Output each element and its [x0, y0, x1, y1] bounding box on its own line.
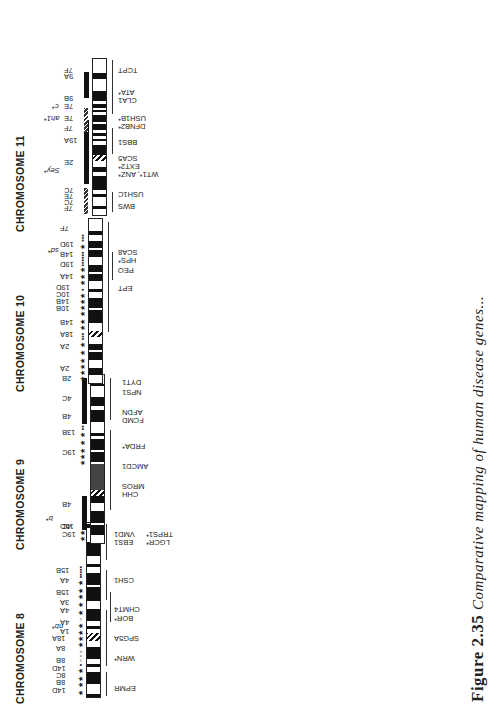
band-label: 4C — [62, 394, 72, 402]
gene-label: EXT2* — [118, 162, 140, 170]
gene-label: BWS — [118, 202, 135, 210]
band-label: 9B — [64, 94, 73, 102]
band-label: 7F — [64, 124, 73, 132]
gene-label: CLA1 — [118, 96, 137, 104]
chromosome-11: CHROMOSOME 11 Sey* ah1* c* 7F 7C 7E 7C 2… — [0, 80, 220, 240]
band-label: 4A — [60, 618, 69, 626]
chromosome-title: CHROMOSOME 10 — [14, 295, 26, 392]
gene-label: FRDA* — [122, 442, 145, 450]
gene-label: EPT — [118, 284, 133, 292]
band-label: 15B — [56, 566, 69, 574]
gene-label: WRN* — [114, 654, 135, 662]
chromosome-9: CHROMOSOME 9 b* 19C 4C 4B 19C 13B 4B 4C … — [0, 400, 220, 560]
band-label: 7E — [64, 102, 73, 110]
chromosome-bar — [92, 58, 107, 216]
gene-range — [110, 430, 111, 510]
gene-label: PEO — [118, 266, 134, 274]
chromosome-bar — [90, 374, 105, 544]
gene-range — [106, 672, 107, 696]
chromosome-8: CHROMOSOME 8 nb* ★ ★★ ★ ▪ ▫ ▫ ▫ ★★★ ★ ▫ … — [0, 560, 220, 710]
figure-page: CHROMOSOME 8 nb* ★ ★★ ★ ▪ ▫ ▫ ▫ ★★★ ★ ▫ … — [0, 0, 490, 710]
allele-label: ah1* — [44, 114, 59, 122]
gene-label: USH1B* — [118, 114, 146, 122]
band-label: 19C — [62, 448, 76, 456]
band-label: 19D — [60, 240, 74, 248]
band-label: 4A — [60, 606, 69, 614]
band-label: 18A — [60, 330, 73, 338]
band-label: 14A — [60, 272, 73, 280]
chromosome-title: CHROMOSOME 8 — [14, 613, 26, 704]
gene-label: AFDN — [122, 408, 142, 416]
allele-label: sd* — [48, 246, 59, 254]
band-label: 4C — [62, 522, 72, 530]
band-label: 2E — [64, 158, 73, 166]
gene-range — [106, 610, 107, 666]
band-label: 19D — [56, 283, 70, 291]
marker-row: ★★★★ ★ ★ ▪▪▪ ★★ ★★★★ ▪ ★★ ★▪▪▪▪▪▪ ★ ▪▪▪ — [80, 234, 85, 382]
band-label: 13B — [62, 428, 75, 436]
gene-label: SCA8 — [118, 248, 138, 256]
allele-label: b* — [46, 514, 53, 522]
band-label: 7C — [64, 186, 74, 194]
figure-caption: Figure 2.35 Comparative mapping of human… — [468, 296, 488, 702]
gene-range — [110, 592, 111, 622]
band-label: 1A — [60, 627, 69, 635]
gene-range — [112, 60, 113, 114]
gene-range — [106, 570, 107, 600]
band-label: 2A — [60, 342, 69, 350]
band-label: 14B — [60, 318, 73, 326]
band-label: 4B — [62, 500, 71, 508]
gene-range — [112, 192, 113, 212]
allele-label: c* — [52, 102, 59, 110]
chromosome-10: CHROMOSOME 10 sd* 2A 2A 18A 14B 10B 14B … — [0, 232, 220, 392]
band-label: 7F — [64, 66, 73, 74]
gene-label: HPS* — [118, 256, 136, 264]
marker-row: ★★ — [80, 530, 85, 542]
band-label: 19C — [62, 530, 76, 538]
marker-row: ★★★ ★ ★ ▪▪ — [80, 425, 85, 466]
gene-label: BOR* — [114, 614, 133, 622]
gene-label: BBS1 — [118, 138, 137, 146]
band-label: 8B — [56, 656, 65, 664]
gene-label: SCA5 — [118, 154, 138, 162]
gene-label: SPG5A — [114, 634, 139, 642]
gene-label: MROS — [122, 482, 145, 490]
conserved-segment — [82, 496, 87, 530]
gene-label: TCPT — [118, 66, 138, 74]
caption-label: Figure 2.35 — [468, 615, 487, 702]
gene-label: EPMR — [114, 684, 136, 692]
chromosome-bar — [88, 218, 103, 384]
band-label: 8A — [56, 644, 65, 652]
gene-label: DFNB2* — [118, 122, 146, 130]
chromosome-title: CHROMOSOME 11 — [14, 135, 26, 232]
gene-range — [112, 252, 113, 280]
gene-label: FCMD — [122, 416, 144, 424]
marker-row: ★ ★★ ★ ▪ ▫ ▫ ▫ ★★★ ★ ▫ ★ ★ ★★ ★ ▪▪▪▪▪ — [78, 566, 83, 696]
band-label: 2A — [60, 364, 69, 372]
band-label: 4B — [62, 412, 71, 420]
allele-label: Sey* — [44, 166, 60, 174]
gene-label: USH1C — [118, 190, 143, 198]
band-label: 14D — [52, 686, 66, 694]
gene-label: ATA* — [118, 88, 134, 96]
band-label: 15B — [56, 588, 69, 596]
caption-text: Comparative mapping of human disease gen… — [470, 296, 486, 610]
band-label: 14B — [60, 250, 73, 258]
band-label: 4A — [60, 576, 69, 584]
band-label: 7E — [64, 114, 73, 122]
band-label: 14D — [52, 664, 66, 672]
conserved-segment — [84, 72, 89, 98]
conserved-segment — [84, 108, 88, 132]
gene-label: CSH1 — [114, 576, 134, 584]
chromosome-title: CHROMOSOME 9 — [14, 459, 26, 550]
band-label: 3A — [60, 598, 69, 606]
gene-label: CHH — [122, 490, 138, 498]
conserved-segment — [84, 188, 88, 214]
band-label: 19D — [60, 260, 74, 268]
gene-label: AMCD1 — [122, 462, 148, 470]
gene-range — [112, 128, 113, 154]
gene-label: WT1*, ANZ* — [118, 170, 158, 178]
band-label: 19A — [64, 136, 77, 144]
gene-label: CHMT4 — [114, 605, 140, 613]
